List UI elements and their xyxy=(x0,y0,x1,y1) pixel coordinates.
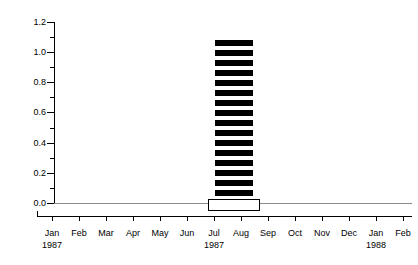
x-axis-line xyxy=(37,216,412,217)
x-tick xyxy=(349,216,350,221)
y-tick-label: 1.2 xyxy=(33,18,46,27)
y-tick-minor xyxy=(50,188,54,189)
y-tick-major xyxy=(47,112,54,113)
bar-jul-aug-1987 xyxy=(215,40,253,203)
x-tick xyxy=(295,216,296,221)
y-tick-label: 0.8 xyxy=(33,78,46,87)
x-tick-label-oct-1987: Oct xyxy=(288,228,302,238)
x-tick-label-may-1987: May xyxy=(151,228,168,238)
x-year-label-1987-start: 1987 xyxy=(42,240,62,250)
y-tick-minor xyxy=(50,158,54,159)
x-tick-label-jul-1987: Jul xyxy=(208,228,220,238)
y-tick-minor xyxy=(50,67,54,68)
x-year-label-1988: 1988 xyxy=(366,240,386,250)
x-tick-label-apr-1987: Apr xyxy=(126,228,140,238)
y-tick-major xyxy=(47,82,54,83)
y-tick-minor xyxy=(50,97,54,98)
y-tick-minor xyxy=(50,37,54,38)
x-tick-label-sep-1987: Sep xyxy=(260,228,276,238)
x-tick xyxy=(52,216,53,221)
y-tick-major xyxy=(47,22,54,23)
chart-canvas: 1.2 1.0 0.8 0.6 0.4 0.2 0.0 Jan Feb Mar … xyxy=(0,0,418,265)
x-tick xyxy=(187,216,188,221)
x-tick xyxy=(403,216,404,221)
x-tick-label-aug-1987: Aug xyxy=(233,228,249,238)
y-tick-major xyxy=(47,143,54,144)
x-year-label-1987-mid: 1987 xyxy=(204,240,224,250)
x-tick xyxy=(268,216,269,221)
x-tick-label-nov-1987: Nov xyxy=(314,228,330,238)
y-tick-label: 0.2 xyxy=(33,169,46,178)
x-tick-label-feb-1988: Feb xyxy=(395,228,411,238)
y-tick-label: 1.0 xyxy=(33,48,46,57)
y-tick-label: 0.6 xyxy=(33,108,46,117)
x-tick xyxy=(160,216,161,221)
y-tick-major xyxy=(47,52,54,53)
y-tick-label: 0.4 xyxy=(33,139,46,148)
x-tick-label-mar-1987: Mar xyxy=(98,228,114,238)
x-tick xyxy=(79,216,80,221)
y-axis-line xyxy=(54,22,55,203)
x-tick-label-jan-1988: Jan xyxy=(369,228,384,238)
x-tick xyxy=(133,216,134,221)
x-tick xyxy=(106,216,107,221)
base-box-annotation xyxy=(208,199,260,211)
x-tick xyxy=(214,216,215,221)
x-tick-label-feb-1987: Feb xyxy=(71,228,87,238)
x-tick-label-jun-1987: Jun xyxy=(180,228,195,238)
y-tick-minor xyxy=(50,128,54,129)
y-tick-major xyxy=(47,173,54,174)
x-tick xyxy=(376,216,377,221)
y-tick-label: 0.0 xyxy=(33,199,46,208)
x-tick xyxy=(241,216,242,221)
x-tick-label-jan-1987: Jan xyxy=(45,228,60,238)
x-tick-label-dec-1987: Dec xyxy=(341,228,357,238)
x-tick xyxy=(322,216,323,221)
x-axis-start-cap xyxy=(37,211,38,217)
y-tick-major xyxy=(47,203,54,204)
